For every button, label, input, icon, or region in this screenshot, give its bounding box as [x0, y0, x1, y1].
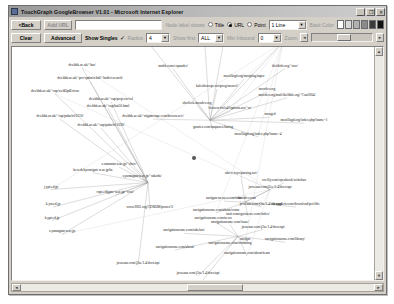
advanced-button[interactable]: Advanced — [44, 33, 82, 43]
graph-node-label[interactable]: navigationsome.com/trimming — [209, 242, 252, 246]
graph-node-label[interactable]: oreilly.com/openbook/webchan — [262, 179, 306, 183]
swatch-black[interactable] — [377, 20, 384, 29]
vertical-scrollbar[interactable]: ▲ ▼ — [374, 47, 383, 280]
min-inbound-label: Min Inbound — [227, 35, 255, 41]
maximize-icon: ❐ — [368, 9, 373, 15]
scroll-left-button[interactable]: ◄ — [12, 284, 21, 291]
graph-node-label[interactable]: mozillagd.org/mozplug/super — [223, 75, 264, 79]
swatch-light-gray[interactable] — [345, 20, 352, 29]
close-button[interactable]: ✕ — [376, 8, 385, 16]
graph-node-label[interactable]: sherlock.mozdev.org — [183, 102, 212, 106]
radio-point-label: Point — [254, 22, 265, 28]
graph-node-label[interactable]: dcs.bbk.ac.uk/~cap/projects/col — [89, 98, 133, 102]
graph-node-label[interactable]: s.xamanta-u.ac.jp/~chov/ — [102, 163, 137, 167]
graph-node-label[interactable]: mozged — [264, 114, 275, 118]
graph-node-label[interactable]: navigationsome.com/about/team — [224, 252, 269, 256]
graph-node-label[interactable]: k.yst.ed.jp — [46, 203, 60, 207]
graph-node-label[interactable]: dcs.bbk.ac.uk/~bar/ — [68, 64, 95, 68]
back-button[interactable]: <Back — [11, 20, 41, 30]
radius-label: Radius — [128, 35, 144, 41]
zoom-slider[interactable] — [311, 33, 373, 42]
chevron-down-icon[interactable]: ▼ — [215, 34, 223, 42]
graph-node-label[interactable]: s.yamagata-u.ac.jp/~rakoda/ — [122, 175, 161, 179]
maximize-button[interactable]: ❐ — [366, 8, 375, 16]
horizontal-scroll-thumb[interactable] — [187, 284, 243, 291]
zoom-slider-thumb[interactable] — [337, 34, 351, 41]
graph-node-label[interactable]: dcs.bbk.ac.uk/~nfgattroupe.com/browsers/… — [122, 115, 184, 119]
show-first-value: ALL — [201, 35, 210, 41]
graph-node-label[interactable]: ubo-c.toyo/parsing.net/ — [225, 172, 257, 176]
toolbar-area: <Back Add URL Node label shows Title URL… — [9, 17, 386, 46]
graph-node-label[interactable]: kaleidoscope.net/prog/mozrel/ — [196, 85, 238, 89]
radio-title-dot — [208, 22, 213, 27]
check-icon: ✓ — [120, 35, 125, 41]
swatch-dark-gray[interactable] — [369, 20, 376, 29]
scroll-down-button[interactable]: ▼ — [375, 271, 383, 280]
graph-node-label[interactable]: mozdev.org/mail/thelibbi.org/~Can2004/ — [259, 94, 316, 98]
show-first-select[interactable]: ALL ▼ — [198, 33, 224, 43]
graph-node-label[interactable]: java.sun.com/j2se/1.4/docs/api — [117, 262, 160, 266]
vertical-scroll-track[interactable] — [375, 56, 383, 271]
graph-node-label[interactable]: java.sun.com/j2se/1.4/docs/api — [242, 226, 285, 230]
graph-node-label[interactable]: dcs.bbk.ac.uk/~cap/pubs/tr11030/ — [78, 124, 125, 128]
graph-node-label[interactable]: navigationsome.com/rabelais/ — [163, 230, 205, 234]
graph-node-label[interactable]: java.sun.com/j2ee/1.4/docs/api — [249, 186, 292, 190]
url-input[interactable] — [75, 20, 162, 30]
graph-node-label[interactable]: flowers-fwl.t4?options.net/~sr/ — [209, 108, 252, 112]
horizontal-scrollbar[interactable]: ◄ ► — [11, 283, 384, 292]
minimize-button[interactable]: _ — [356, 8, 365, 16]
min-inbound-value: 0 — [261, 35, 264, 41]
radius-select[interactable]: 4 ▼ — [146, 33, 170, 43]
show-singles-checkbox[interactable]: Show Singles ✓ — [85, 35, 125, 41]
globe-icon — [11, 8, 18, 15]
line-count-select[interactable]: 1 Line ▼ — [269, 20, 307, 30]
show-first-label: Show first — [173, 35, 195, 41]
radio-title[interactable]: Title — [208, 22, 224, 28]
app-window: TouchGraph GoogleBrowser V1.01 - Microso… — [8, 5, 387, 295]
clear-button[interactable]: Clear — [11, 33, 41, 43]
add-url-button[interactable]: Add URL — [44, 20, 72, 30]
graph-node-label[interactable]: java.sun.com/j2se/1.4/docs/api — [177, 273, 220, 277]
show-singles-label: Show Singles — [85, 35, 118, 41]
graph-node-label[interactable]: dcs.bbk.ac.uk/~cap/pubs/tr10110/ — [37, 115, 84, 119]
graph-node-label[interactable]: stuffit.com/expander/ — [158, 65, 188, 69]
min-inbound-select[interactable]: 0 ▼ — [258, 33, 282, 43]
back-color-swatches[interactable] — [337, 20, 384, 29]
swatch-white[interactable] — [337, 20, 344, 29]
graph-node-label[interactable]: k.ypt.ed.jp — [45, 217, 60, 221]
graph-viewport[interactable]: theldobi.org/~Can2004/journal/help.netsc… — [12, 47, 374, 280]
radio-point[interactable]: Point — [247, 22, 265, 28]
swatch-gray[interactable] — [353, 20, 360, 29]
graph-node-label[interactable]: trait.comogwinesse.com/index/ — [226, 213, 269, 217]
radio-url-dot — [227, 22, 232, 27]
chevron-down-icon[interactable]: ▼ — [161, 34, 169, 42]
graph-node-label[interactable]: deapplerit.com/download/perl/dis — [273, 203, 320, 207]
graph-node-label[interactable]: www2002.org/CDROM/poster/3/ — [126, 206, 173, 210]
zoom-decrease-button[interactable]: ◄ — [300, 33, 308, 42]
graph-node-label[interactable]: mozdev.com — [238, 197, 256, 201]
graph-node-label[interactable]: dcs.bbk.ac.uk/~prc/optimix.bdi/~bath/res… — [57, 77, 123, 81]
chevron-down-icon[interactable]: ▼ — [298, 21, 306, 29]
graph-node-label[interactable]: theldobi.org/~raw/ — [272, 65, 298, 69]
scroll-right-button[interactable]: ► — [374, 284, 383, 291]
scroll-up-button[interactable]: ▲ — [375, 47, 383, 56]
graph-node-label[interactable]: mozillagd.org/index.php?name=4 — [235, 133, 282, 137]
graph-node-label[interactable]: gnuries.com/taupaxes/haring — [193, 126, 233, 130]
graph-node-label[interactable]: s.yamagata-u.ac.jp — [49, 231, 75, 235]
chevron-down-icon[interactable]: ▼ — [273, 34, 281, 42]
graph-node-label[interactable]: mozillagd.org/index.php?name=1 — [281, 119, 328, 123]
graph-node-label[interactable]: cspt.edijgate-u.ac.jp/~cost/ — [96, 192, 133, 196]
zoom-increase-button[interactable]: ► — [376, 33, 384, 42]
graph-node-label[interactable]: dcs.bbk.ac.uk/~cap/hat50.html — [87, 105, 130, 109]
graph-node-label[interactable]: mozdev.org — [259, 88, 275, 92]
swatch-mid-gray[interactable] — [361, 20, 368, 29]
title-bar[interactable]: TouchGraph GoogleBrowser V1.01 - Microso… — [9, 6, 386, 17]
graph-node-label[interactable]: dcs.bbk.ac.uk/~cap/webOptEctcuz — [31, 90, 79, 94]
graph-node-label[interactable]: navigationsome.com/about/ — [156, 246, 195, 250]
graph-node-label[interactable]: j.ypt.ed.jp — [44, 186, 58, 190]
graph-node-label[interactable]: navigationsome.com/library/ — [265, 238, 305, 242]
graph-node-label[interactable]: keverb.kyomigate-u.ac.jp/be — [73, 169, 113, 173]
graph-node-label[interactable]: navigatessesses.com/mks/ — [206, 197, 242, 201]
radio-url[interactable]: URL — [227, 22, 244, 28]
horizontal-scroll-track[interactable] — [21, 284, 374, 291]
